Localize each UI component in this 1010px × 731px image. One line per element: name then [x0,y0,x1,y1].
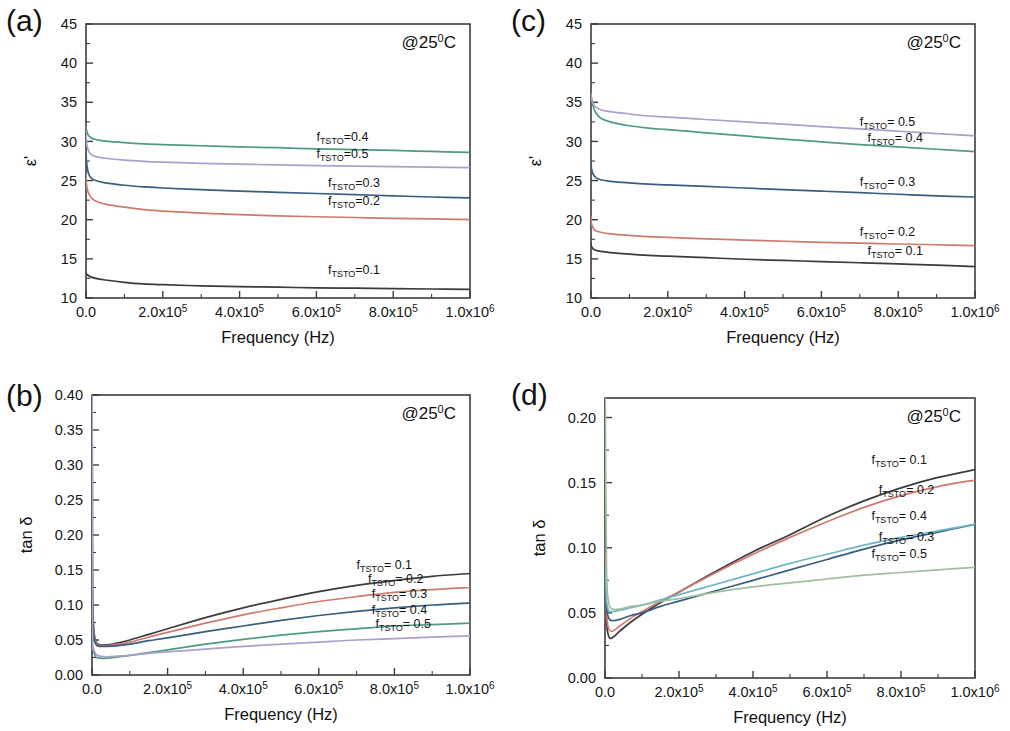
x-axis-title: Frequency (Hz) [221,328,335,346]
curve-label: fTSTO= 0.2 [879,483,935,499]
x-tick-label: 4.0x105 [720,303,770,320]
curve-label: fTSTO= 0.1 [867,244,923,260]
x-tick-label: 6.0x105 [797,303,847,320]
x-tick-label: 0.0 [82,681,102,697]
x-tick-label: 2.0x105 [654,683,704,700]
x-tick-label: 4.0x105 [219,680,269,697]
panel-d: (d) 0.000.050.100.150.200.02.0x1054.0x10… [505,366,1010,731]
curve-label: fTSTO=0.1 [328,263,380,279]
y-tick-label: 25 [61,173,77,189]
x-tick-label: 8.0x105 [874,303,924,320]
y-tick-label: 0.40 [55,387,83,403]
y-tick-label: 40 [566,55,582,71]
temperature-annotation: @250C [401,32,456,52]
curve-label: fTSTO= 0.5 [871,547,927,563]
y-tick-label: 0.10 [568,540,596,556]
y-tick-label: 25 [566,173,582,189]
x-tick-label: 4.0x105 [215,303,265,320]
y-tick-label: 40 [61,55,77,71]
x-tick-label: 0.0 [76,304,96,320]
y-tick-label: 45 [566,16,582,32]
y-tick-label: 0.00 [568,670,596,686]
curve-0.4 [86,127,470,153]
y-axis-title: tan δ [17,517,35,554]
curve-label: fTSTO=0.4 [316,130,368,146]
y-tick-label: 35 [61,94,77,110]
panel-c-plot: 10152025303540450.02.0x1054.0x1056.0x105… [505,0,1010,365]
panel-a-plot: 10152025303540450.02.0x1054.0x1056.0x105… [0,0,505,365]
x-tick-label: 1.0x106 [950,683,1000,700]
y-tick-label: 0.05 [568,605,596,621]
x-tick-label: 0.0 [581,304,601,320]
panel-b: (b) 0.000.050.100.150.200.250.300.350.40… [0,365,505,730]
x-tick-label: 2.0x105 [138,303,188,320]
curves-group [591,93,975,267]
x-axis-title: Frequency (Hz) [726,328,840,346]
curve-label: fTSTO= 0.4 [867,131,923,147]
y-tick-label: 0.30 [55,457,83,473]
temperature-annotation: @250C [401,403,456,423]
y-axis-title: ε' [21,156,39,167]
curve-0.5 [605,397,975,610]
x-tick-label: 4.0x105 [728,683,778,700]
panel-a: (a) 10152025303540450.02.0x1054.0x1056.0… [0,0,505,365]
panel-c: (c) 10152025303540450.02.0x1054.0x1056.0… [505,0,1010,365]
temperature-annotation: @250C [906,32,961,52]
curve-0.3 [591,163,975,197]
x-tick-label: 2.0x105 [643,303,693,320]
x-tick-label: 0.0 [595,684,615,700]
curve-label: fTSTO= 0.5 [376,617,432,633]
x-tick-label: 1.0x106 [950,303,1000,320]
y-tick-label: 0.20 [568,410,596,426]
y-tick-label: 0.10 [55,597,83,613]
y-tick-label: 10 [61,290,77,306]
x-tick-label: 6.0x105 [294,680,344,697]
curve-label: fTSTO= 0.4 [372,603,428,619]
x-axis-title: Frequency (Hz) [224,705,338,723]
y-tick-label: 15 [61,251,77,267]
y-tick-label: 35 [566,94,582,110]
y-tick-label: 0.15 [568,475,596,491]
y-tick-label: 0.25 [55,492,83,508]
curve-0.3 [86,148,470,198]
y-tick-label: 0.00 [55,667,83,683]
curves-group [86,127,470,290]
y-axis-title: ε' [526,156,544,167]
x-axis-title: Frequency (Hz) [733,708,847,726]
curve-label: fTSTO= 0.2 [368,572,424,588]
curve-label: fTSTO=0.2 [328,194,380,210]
y-tick-label: 20 [566,212,582,228]
plot-frame [92,395,470,675]
y-tick-label: 30 [566,134,582,150]
temperature-annotation: @250C [906,406,961,426]
y-tick-label: 0.15 [55,562,83,578]
x-tick-label: 1.0x106 [445,303,495,320]
x-tick-label: 2.0x105 [143,680,193,697]
curve-0.5 [86,131,470,167]
y-tick-label: 20 [61,212,77,228]
x-tick-label: 1.0x106 [445,680,495,697]
y-tick-label: 0.20 [55,527,83,543]
y-axis-title: tan δ [530,520,548,557]
x-tick-label: 8.0x105 [876,683,926,700]
curve-0.5 [591,94,975,135]
y-tick-label: 15 [566,251,582,267]
y-tick-label: 10 [566,290,582,306]
y-tick-label: 45 [61,16,77,32]
curve-label: fTSTO= 0.2 [860,225,916,241]
curve-label: fTSTO= 0.3 [372,587,428,603]
dielectric-figure: (a) 10152025303540450.02.0x1054.0x1056.0… [0,0,1010,731]
curve-label: fTSTO= 0.3 [860,175,916,191]
x-tick-label: 6.0x105 [802,683,852,700]
panel-b-plot: 0.000.050.100.150.200.250.300.350.400.02… [0,365,505,730]
curve-0.2 [591,217,975,246]
curve-label: fTSTO= 0.3 [879,530,935,546]
y-tick-label: 0.35 [55,422,83,438]
x-tick-label: 6.0x105 [292,303,342,320]
y-tick-label: 0.05 [55,632,83,648]
curve-0.1 [86,272,470,289]
curve-label: fTSTO= 0.4 [871,509,927,525]
x-tick-label: 8.0x105 [369,303,419,320]
y-tick-label: 30 [61,134,77,150]
curve-label: fTSTO= 0.5 [860,115,916,131]
